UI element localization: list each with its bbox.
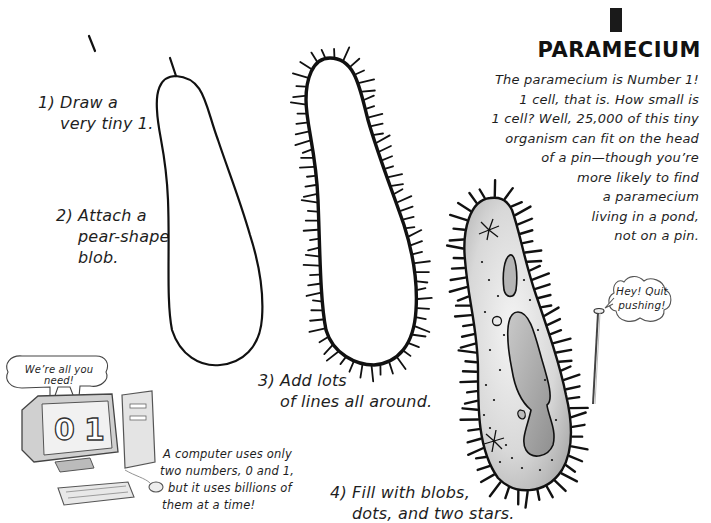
computer-bubble-text: We’re all you need! bbox=[12, 364, 106, 386]
computer-illustration bbox=[0, 0, 711, 523]
screen-digit-one: 1 bbox=[84, 412, 105, 447]
screen-digit-zero: 0 bbox=[54, 412, 75, 447]
computer-caption: A computer uses only two numbers, 0 and … bbox=[160, 446, 294, 514]
